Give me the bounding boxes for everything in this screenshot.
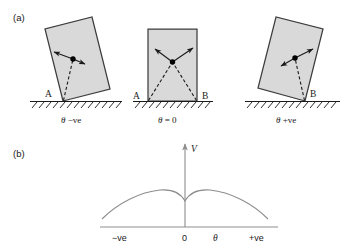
contact-label-a: A — [45, 89, 52, 99]
contact-label-a: A — [133, 91, 140, 101]
caption-theta-positive: θ +ve — [276, 115, 296, 125]
caption-theta-value-2: = 0 — [165, 115, 177, 125]
block-theta-negative-shape — [45, 17, 110, 101]
centre-of-mass-dot — [292, 55, 297, 60]
ground-hatching-3 — [247, 102, 336, 108]
caption-theta-value-3: +ve — [283, 115, 297, 125]
centre-of-mass-dot — [170, 59, 175, 64]
ground-hatching-1 — [32, 102, 121, 108]
x-tick-negative: −ve — [112, 233, 127, 243]
block-theta-negative-group: A θ −ve — [30, 17, 122, 125]
potential-energy-chart: V −ve 0 θ +ve — [100, 144, 278, 243]
x-tick-positive: +ve — [249, 233, 264, 243]
block-theta-zero-group: A B θ = 0 — [133, 29, 213, 125]
panel-b-label: (b) — [13, 148, 25, 159]
contact-label-b: B — [202, 91, 208, 101]
x-tick-zero: 0 — [182, 233, 187, 243]
ground-hatching-2 — [135, 102, 210, 108]
panel-a-label: (a) — [13, 12, 25, 23]
caption-theta-negative: θ −ve — [61, 115, 81, 125]
block-theta-positive-group: B θ +ve — [245, 17, 340, 125]
physics-figure: (a) A θ −ve — [0, 0, 356, 248]
contact-label-b: B — [310, 89, 316, 99]
caption-theta-zero: θ = 0 — [158, 115, 177, 125]
x-axis-variable-label: θ — [213, 233, 218, 243]
caption-theta-value-1: −ve — [68, 115, 82, 125]
v-axis-label: V — [191, 144, 198, 154]
centre-of-mass-dot — [70, 56, 75, 61]
